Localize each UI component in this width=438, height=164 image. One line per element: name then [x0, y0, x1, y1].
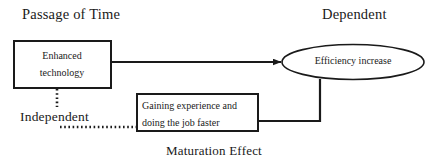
column-title-dependent: Dependent	[322, 6, 387, 23]
diagram-graphics-layer	[0, 0, 438, 164]
box-gaining-experience-line1: Gaining experience and	[142, 97, 258, 114]
diagram-canvas: Passage of Time Dependent Enhanced techn…	[0, 0, 438, 164]
box-enhanced-technology-line2: technology	[13, 64, 111, 81]
label-maturation-effect: Maturation Effect	[166, 144, 262, 159]
connector-experience-to-efficiency	[258, 79, 320, 121]
box-enhanced-technology-line1: Enhanced	[13, 47, 111, 64]
box-gaining-experience-line2: doing the job faster	[142, 114, 258, 131]
label-independent: Independent	[20, 109, 89, 125]
ellipse-efficiency-increase-label: Efficiency increase	[282, 55, 424, 66]
column-title-passage-of-time: Passage of Time	[22, 6, 120, 23]
